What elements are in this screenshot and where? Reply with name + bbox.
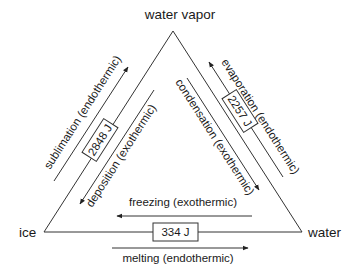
energy-box-2848: 2848 J: [82, 119, 118, 162]
node-water-vapor: water vapor: [144, 7, 216, 22]
diagram-canvas: water vapor ice water sublimation (endot…: [0, 0, 360, 277]
node-ice: ice: [19, 225, 36, 240]
node-water: water: [307, 225, 342, 240]
melting-label: melting (endothermic): [122, 252, 233, 264]
freezing-label: freezing (exothermic): [129, 196, 237, 208]
energy-box-334: 334 J: [153, 223, 198, 241]
energy-label-334: 334 J: [161, 226, 189, 238]
phase-change-diagram: water vapor ice water sublimation (endot…: [0, 0, 360, 277]
sublimation-label: sublimation (endothermic): [42, 53, 124, 171]
